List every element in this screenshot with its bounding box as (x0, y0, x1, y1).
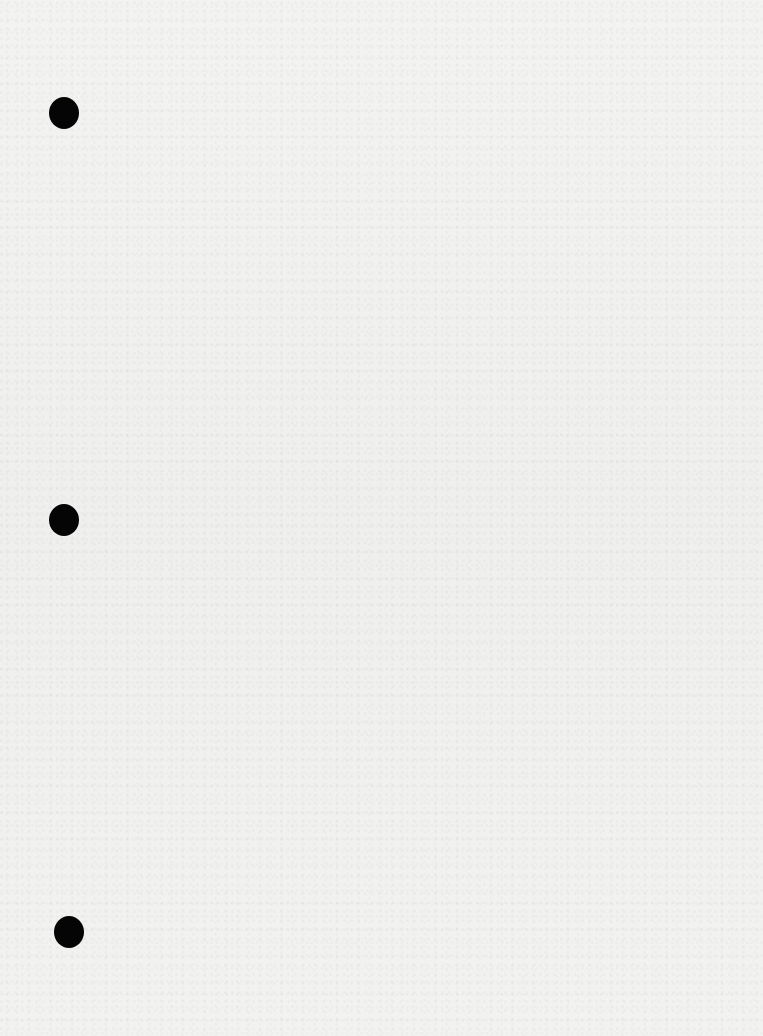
punch-hole-top (49, 97, 79, 129)
blank-paper-sheet (0, 0, 763, 1036)
punch-hole-middle (49, 504, 79, 536)
punch-hole-bottom (54, 916, 84, 948)
